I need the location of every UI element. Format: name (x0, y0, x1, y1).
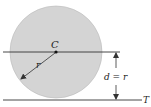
distance-label: d = r (104, 72, 128, 82)
tangent-label: T (143, 95, 150, 105)
center-label: C (51, 39, 59, 50)
radius-label: r (36, 60, 41, 70)
circle-diagram: C r d = r T (0, 0, 151, 107)
